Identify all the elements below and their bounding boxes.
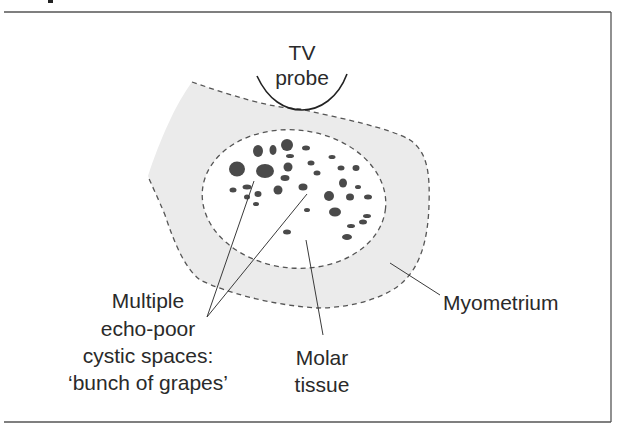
cyst (347, 224, 355, 228)
cyst (346, 194, 354, 201)
cyst (304, 208, 310, 212)
cyst (302, 146, 310, 151)
cyst (338, 166, 345, 171)
cyst (342, 234, 352, 240)
probe-label-tv: TV (289, 41, 316, 64)
molar-label-line-2: tissue (295, 373, 350, 396)
cysts-label-line-4: ‘bunch of grapes’ (68, 371, 228, 394)
cyst (353, 165, 360, 171)
cyst (324, 191, 334, 201)
cyst (274, 186, 283, 195)
cyst (339, 179, 347, 188)
cyst (284, 163, 293, 172)
cyst (329, 155, 336, 159)
cyst (243, 185, 252, 190)
cysts-label-line-3: cystic spaces: (83, 344, 214, 367)
cyst (308, 161, 315, 166)
cyst (355, 185, 361, 189)
cysts-label-line-1: Multiple (112, 289, 184, 312)
cyst (329, 208, 341, 217)
cyst (253, 145, 263, 157)
title-text-fragment (48, 0, 53, 3)
cyst (256, 164, 274, 178)
cyst (270, 145, 277, 155)
cyst (255, 191, 262, 197)
probe-label-probe: probe (275, 66, 329, 89)
cyst (283, 230, 291, 235)
cyst (364, 195, 372, 200)
cyst (286, 154, 294, 158)
cyst (281, 175, 290, 181)
molar-label-line-1: Molar (296, 346, 349, 369)
cyst (359, 220, 367, 225)
cyst (229, 162, 245, 177)
cyst (314, 171, 321, 176)
cyst (230, 188, 237, 193)
cyst (281, 139, 293, 151)
cyst (299, 184, 308, 191)
cyst (363, 214, 371, 218)
myometrium-label: Myometrium (443, 291, 559, 314)
cysts-label-line-2: echo-poor (101, 317, 196, 340)
cyst (253, 202, 259, 206)
molar-pregnancy-diagram: TV probe Multiple echo-poor cystic space… (0, 0, 624, 443)
